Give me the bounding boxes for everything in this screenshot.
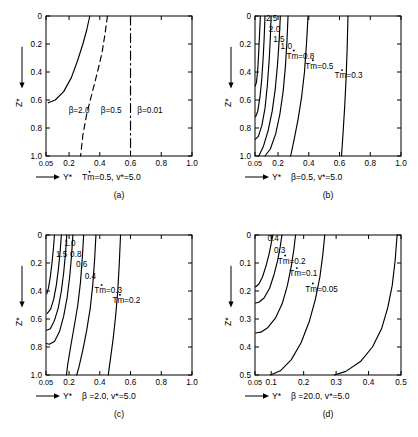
panel-condition-caption: β =20.0, v*=5.0 [291,391,350,401]
panel-condition-caption: β =2.0, v*=5.0 [82,391,136,401]
panel-tag: (b) [323,190,334,200]
y-tick-label: 0.1 [240,259,252,268]
y-tick-label: 0.8 [31,124,43,133]
y-axis-arrowhead [228,302,233,308]
curve-label: Tm=0.1 [289,267,317,278]
curve-label-text: Tm=0.1 [289,269,317,278]
panel-condition-text: β =20.0, v*=5.0 [291,391,350,401]
curve-label: Tm=0.05 [305,283,338,294]
curve-label: Tm=0.2 [278,255,306,266]
y-axis-arrowhead [19,302,24,308]
panel-condition-text: β=0.5, v*=5.0 [291,172,343,182]
x-axis-title: Y* [63,391,73,401]
y-tick-label: 1.0 [31,152,43,161]
x-tick-label: 0.2 [63,159,75,168]
curve-label-text: Tm=0.2 [112,296,140,305]
curve-label: 0.4 [267,234,279,243]
curve-label-text: 0.4 [267,234,279,243]
curve-label: 0.3 [274,246,286,255]
panel-condition-text: Tm=0.5, v*=5.0 [82,172,141,182]
curve-label: β=2.0 [69,106,90,115]
y-tick-label: 0.6 [240,96,252,105]
x-axis-arrowhead [263,174,269,180]
y-tick-label: 0 [37,12,42,21]
x-tick-label: 0.4 [363,378,375,387]
curve-label: Tm=0.8 [286,50,314,61]
panel-tag: (c) [114,409,124,419]
curve-label-text: 2.0 [269,25,281,34]
x-tick-label: 0.5 [395,378,407,387]
x-axis-arrowhead [263,393,269,399]
panel-a: 0.050.20.40.60.81.000.20.40.60.81.0β=2.0… [0,0,209,218]
panel-condition-caption: β=0.5, v*=5.0 [291,172,343,182]
curve-label: 2.5 [266,14,278,23]
curve-label-text: 0.3 [274,246,286,255]
y-tick-label: 0.4 [240,68,252,77]
figure-container: 0.050.20.40.60.81.000.20.40.60.81.0β=2.0… [0,0,418,437]
x-tick-label: 0.3 [330,378,342,387]
x-tick-label: 0.6 [125,159,137,168]
y-tick-label: 1.0 [240,152,252,161]
x-tick-label: 0.1 [266,378,278,387]
contour-curve [48,16,89,103]
curve-label-text: Tm=0.2 [278,257,306,266]
curve-label: 0.4 [85,272,97,281]
x-tick-label: 0.8 [156,378,168,387]
x-tick-label: 1.0 [395,159,407,168]
y-tick-label: 0.2 [240,287,252,296]
x-axis-arrowhead [54,174,60,180]
panel-condition-caption: Tm=0.5, v*=5.0 [82,171,141,182]
curve-label-text: Tm=0.05 [305,285,338,294]
y-tick-label: 0 [246,231,251,240]
overdot-marker [119,294,121,296]
y-tick-label: 0.4 [31,68,43,77]
curve-label-text: 0.4 [85,272,97,281]
panel-c: 0.050.20.40.60.81.000.20.40.60.81.01.51.… [0,219,209,437]
curve-label-text: 0.6 [76,260,88,269]
x-tick-label: 0.2 [272,159,284,168]
overdot-marker [89,171,91,173]
curve-label-text: Tm=0.8 [286,52,314,61]
y-tick-label: 1.0 [31,371,43,380]
curve-label: 0.6 [76,260,88,269]
x-axis-title: Y* [272,391,282,401]
curve-label-text: β=2.0 [69,106,90,115]
curve-label-text: Tm=0.3 [335,71,363,80]
y-axis-title: Z* [14,98,24,107]
contour-curve [256,16,265,117]
y-tick-label: 0.8 [240,124,252,133]
x-tick-label: 0.8 [365,159,377,168]
curve-label-text: 0.8 [70,250,82,259]
panel-tag: (a) [114,190,125,200]
curve-label: 1.0 [64,239,76,248]
x-tick-label: 0.4 [94,378,106,387]
curve-label-text: β=0.01 [137,106,163,115]
panel-d: 0.050.10.20.30.40.500.10.20.30.40.50.40.… [209,219,418,437]
y-tick-label: 0.4 [240,343,252,352]
overdot-marker [101,284,103,286]
x-axis-arrowhead [54,393,60,399]
curve-label: Tm=0.3 [335,69,363,80]
curve-label: 0.8 [70,250,82,259]
contour-curve [255,16,271,139]
y-tick-label: 0.2 [31,40,43,49]
curve-label: β=0.5 [101,106,122,115]
x-tick-label: 0.8 [156,159,168,168]
y-tick-label: 0 [37,231,42,240]
y-axis-title: Z* [223,98,233,107]
y-tick-label: 0.6 [31,96,43,105]
y-tick-label: 0.8 [31,343,43,352]
panel-b: 0.050.20.40.60.81.000.20.40.60.81.02.52.… [209,0,418,218]
x-tick-label: 0.2 [63,378,75,387]
curve-label: Tm=0.5 [305,59,333,70]
x-tick-label: 0.6 [125,378,137,387]
overdot-marker [296,267,298,269]
curve-label-text: 2.5 [266,14,278,23]
curve-label-text: 1.0 [64,239,76,248]
curve-label-text: Tm=0.5 [305,62,333,71]
panel-tag: (d) [323,409,334,419]
y-tick-label: 0.2 [240,40,252,49]
overdot-marker [312,283,314,285]
contour-curve [108,235,120,375]
y-axis-title: Z* [223,317,233,326]
